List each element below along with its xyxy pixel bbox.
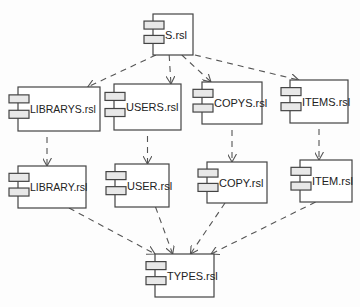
component-tab-icon	[193, 104, 213, 112]
component-diagram: S.rslLIBRARYS.rslUSERS.rslCOPYS.rslITEMS…	[0, 0, 360, 307]
component-label: TYPES.rsl	[167, 270, 218, 282]
component-label: ITEM.rsl	[312, 175, 353, 187]
component-label: LIBRARYS.rsl	[30, 103, 96, 115]
component-items[interactable]: ITEMS.rsl	[281, 80, 350, 123]
component-label: LIBRARY.rsl	[30, 181, 87, 193]
component-tab-icon	[281, 103, 301, 111]
component-label: ITEMS.rsl	[302, 96, 350, 108]
component-tab-icon	[144, 35, 164, 43]
component-types[interactable]: TYPES.rsl	[146, 254, 218, 297]
component-copys[interactable]: COPYS.rsl	[193, 82, 267, 124]
component-tab-icon	[198, 183, 218, 191]
component-tab-icon	[146, 262, 166, 270]
dependency-s-users	[169, 55, 171, 84]
dependency-arrows	[47, 55, 319, 254]
component-tab-icon	[9, 110, 29, 118]
component-tab-icon	[291, 182, 311, 190]
component-tab-icon	[281, 88, 301, 96]
dependency-s-copys	[182, 55, 211, 82]
component-label: COPY.rsl	[219, 177, 263, 189]
component-copy[interactable]: COPY.rsl	[198, 162, 267, 203]
component-tab-icon	[146, 277, 166, 285]
component-users[interactable]: USERS.rsl	[105, 84, 181, 130]
dependency-user-types	[156, 207, 173, 254]
dependency-s-items	[195, 55, 299, 80]
component-tab-icon	[291, 167, 311, 175]
component-tab-icon	[198, 169, 218, 177]
component-label: USER.rsl	[127, 180, 172, 192]
component-librarys[interactable]: LIBRARYS.rsl	[9, 87, 100, 131]
component-tab-icon	[193, 89, 213, 97]
component-item[interactable]: ITEM.rsl	[291, 160, 353, 202]
dependency-s-librarys	[88, 55, 156, 87]
component-tab-icon	[9, 95, 29, 103]
component-user[interactable]: USER.rsl	[106, 164, 172, 207]
component-label: COPYS.rsl	[214, 97, 267, 109]
component-s[interactable]: S.rsl	[144, 14, 193, 55]
dependency-copy-types	[190, 203, 225, 254]
dependency-item-types	[211, 202, 316, 254]
component-tab-icon	[105, 92, 125, 100]
component-tab-icon	[106, 187, 126, 195]
component-label: S.rsl	[165, 29, 187, 41]
component-tab-icon	[105, 109, 125, 117]
component-tab-icon	[9, 188, 29, 196]
component-tab-icon	[144, 21, 164, 29]
component-tab-icon	[106, 172, 126, 180]
components: S.rslLIBRARYS.rslUSERS.rslCOPYS.rslITEMS…	[9, 14, 353, 297]
dependency-library-types	[69, 208, 155, 254]
component-library[interactable]: LIBRARY.rsl	[9, 166, 87, 208]
component-label: USERS.rsl	[126, 101, 179, 113]
component-tab-icon	[9, 173, 29, 181]
